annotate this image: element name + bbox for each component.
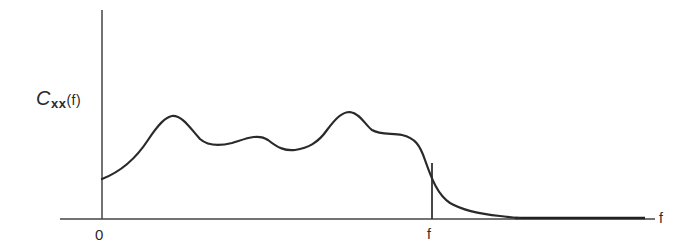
y-axis-label-symbol: C [36, 87, 51, 109]
spectrum-curve [102, 112, 520, 218]
y-axis-label-argument: (f) [66, 92, 81, 108]
origin-label: 0 [95, 226, 103, 243]
y-axis-label: Cxx(f) [36, 87, 81, 110]
spectrum-diagram [0, 0, 695, 248]
y-axis-label-subscript: xx [51, 96, 66, 111]
cutoff-frequency-label: f [427, 226, 431, 242]
x-axis-label: f [659, 210, 663, 226]
